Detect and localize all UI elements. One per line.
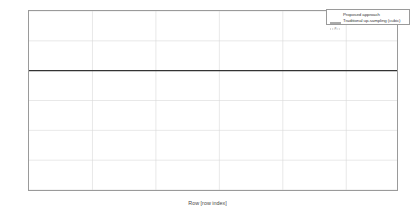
- chart-figure: mse [dB] Row [row index] Proposed approa…: [0, 0, 415, 220]
- legend-item-traditional: * Traditional up-sampling (cubic): [329, 18, 407, 24]
- legend-label-traditional: Traditional up-sampling (cubic): [342, 18, 400, 24]
- chart-legend: Proposed approach * Traditional up-sampl…: [326, 9, 410, 25]
- legend-dotted-marker-sample: *: [329, 18, 342, 24]
- x-axis-label: Row [row index]: [0, 200, 415, 206]
- chart-canvas: [29, 11, 397, 190]
- plot-area: [28, 10, 398, 191]
- svg-text:*: *: [335, 26, 337, 32]
- gridlines: [29, 11, 397, 190]
